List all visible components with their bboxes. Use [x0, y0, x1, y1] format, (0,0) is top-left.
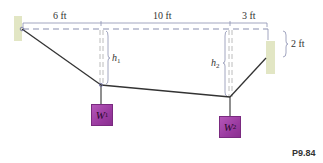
h1-dashed-guide — [100, 30, 103, 85]
weight-w1: W1 — [91, 104, 113, 126]
w1-symbol: W — [96, 109, 105, 121]
h1-brace — [106, 31, 110, 84]
right-offset-brace — [283, 31, 288, 57]
w1-subscript: 1 — [105, 111, 109, 119]
weight-w2: W2 — [219, 116, 241, 138]
h2-brace — [223, 31, 227, 96]
right-offset-label: 2 ft — [291, 39, 305, 49]
h1-label: h1 — [112, 53, 121, 65]
span-1-label: 6 ft — [53, 11, 67, 21]
left-wall-support — [14, 16, 22, 41]
h1-subscript: 1 — [117, 57, 121, 65]
cable-diagram — [0, 0, 323, 163]
span-3-label: 3 ft — [242, 11, 256, 21]
problem-label: P9.84 — [292, 148, 316, 158]
w2-subscript: 2 — [233, 123, 237, 131]
span-2-label: 10 ft — [153, 11, 172, 21]
right-wall-support — [266, 41, 275, 74]
w2-symbol: W — [224, 121, 233, 133]
h2-subscript: 2 — [216, 62, 220, 70]
dimension-bracket-horizontal — [23, 21, 267, 27]
h2-label: h2 — [211, 58, 220, 70]
h2-dashed-guide — [229, 30, 232, 97]
